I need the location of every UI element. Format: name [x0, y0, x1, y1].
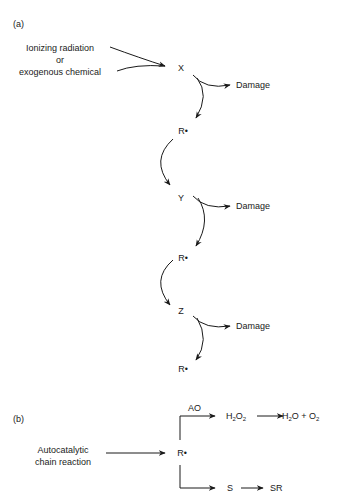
autocatalytic-label: Autocatalytic — [37, 445, 88, 456]
input-radiation-label: Ionizing radiation — [26, 43, 94, 54]
panel-b-label: (b) — [13, 414, 24, 425]
input-or-label: or — [56, 55, 64, 66]
arrow-z-to-radical — [196, 318, 203, 360]
input-chemical-label: exogenous chemical — [19, 67, 101, 78]
water-oxygen-label: H2O + O2 — [282, 411, 319, 422]
arrow-chemical-to-x — [117, 66, 165, 71]
arrow-radical-to-s — [180, 465, 215, 488]
h2o2-label: H2O2 — [226, 411, 246, 422]
radical-center: R• — [177, 448, 187, 459]
arrow-radical-to-y — [161, 139, 173, 185]
radical-3: R• — [178, 364, 188, 375]
species-y: Y — [178, 193, 184, 204]
product-sr-label: SR — [270, 483, 283, 494]
arrow-radical-to-h2o2 — [180, 416, 215, 440]
species-z: Z — [178, 306, 184, 317]
damage-label-z: Damage — [236, 321, 270, 332]
arrow-radical-to-z — [161, 260, 173, 305]
damage-label-x: Damage — [236, 80, 270, 91]
radical-1: R• — [178, 126, 188, 137]
panel-a-label: (a) — [13, 19, 24, 30]
arrow-y-to-radical — [196, 198, 205, 246]
damage-label-y: Damage — [236, 201, 270, 212]
enzyme-ao-label: AO — [188, 403, 201, 414]
arrow-radiation-to-x — [110, 47, 165, 66]
arrow-y-to-damage — [193, 196, 230, 207]
radical-2: R• — [178, 253, 188, 264]
chain-reaction-label: chain reaction — [35, 457, 91, 468]
arrow-x-to-radical — [196, 78, 203, 118]
substrate-s-label: S — [227, 483, 233, 494]
species-x: X — [178, 63, 184, 74]
